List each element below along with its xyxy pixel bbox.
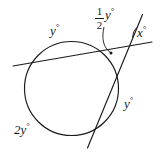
geometry-figure: y° y° 2y° x° 1 2 y° bbox=[0, 0, 164, 156]
label-angle-interior-variable: y° bbox=[105, 7, 114, 21]
label-arc-bottom-left-text: 2y bbox=[14, 122, 26, 137]
fraction-numerator: 1 bbox=[96, 6, 104, 17]
degree-symbol-icon: ° bbox=[111, 6, 115, 16]
degree-symbol-icon: ° bbox=[56, 22, 60, 32]
degree-symbol-icon: ° bbox=[130, 95, 134, 105]
label-arc-top-left: y° bbox=[50, 23, 59, 37]
degree-symbol-icon: ° bbox=[143, 24, 147, 34]
secant-steep bbox=[88, 15, 143, 149]
label-angle-interior: 1 2 y° bbox=[95, 6, 114, 31]
fraction-denominator: 2 bbox=[96, 20, 104, 31]
label-arc-bottom-left: 2y° bbox=[14, 122, 30, 136]
angle-vertex-dot bbox=[110, 52, 113, 55]
label-arc-right: y° bbox=[124, 96, 133, 110]
fraction-one-half: 1 2 bbox=[95, 6, 104, 31]
degree-symbol-icon: ° bbox=[26, 121, 30, 131]
label-angle-exterior: x° bbox=[137, 25, 146, 39]
secant-near-horizontal bbox=[13, 42, 152, 66]
